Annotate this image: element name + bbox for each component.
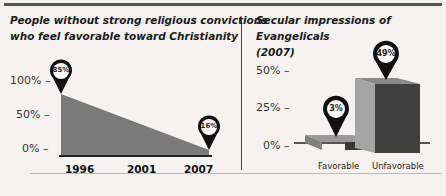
bar-unfavorable-face	[355, 78, 375, 153]
pin-icon	[198, 115, 220, 150]
bar-unfavorable-dark	[375, 84, 420, 153]
chart-graphics	[0, 0, 446, 196]
pin-icon	[373, 41, 399, 80]
pin-label-49: 49%	[376, 49, 396, 58]
pin-label-16: 16%	[200, 122, 218, 130]
pin-label-85: 85%	[52, 66, 70, 74]
pin-icon	[323, 96, 349, 137]
left-area	[61, 94, 209, 156]
pin-label-3: 3%	[326, 104, 346, 113]
pin-icon	[50, 59, 72, 94]
